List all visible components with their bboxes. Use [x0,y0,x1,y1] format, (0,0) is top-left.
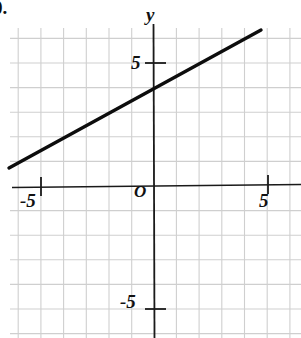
plotted-line [9,30,261,168]
x-axis [12,185,301,188]
x-tick-label-negative-5: -5 [20,190,36,212]
origin-label: O [134,182,146,202]
x-tick-label-positive-5: 5 [259,190,269,212]
y-tick-label-negative-5: -5 [120,291,136,313]
y-tick-label-positive-5: 5 [131,52,141,74]
coordinate-graph-figure: 0. [0,0,301,338]
coordinate-plane-svg [0,0,301,338]
y-axis-label: y [146,4,154,26]
y-axis [154,24,155,338]
